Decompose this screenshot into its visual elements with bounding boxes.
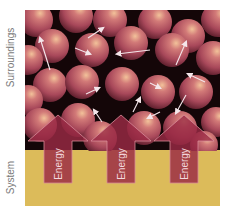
- energy-transfer-illustration: Energy Energy Energy: [0, 0, 234, 217]
- illustration-frame: Energy Energy Energy: [13, 0, 234, 206]
- energy-arrows: Energy Energy Energy: [28, 115, 214, 183]
- energy-arrow-label: Energy: [53, 148, 64, 180]
- energy-arrow-label: Energy: [179, 148, 190, 180]
- energy-arrow-label: Energy: [116, 148, 127, 180]
